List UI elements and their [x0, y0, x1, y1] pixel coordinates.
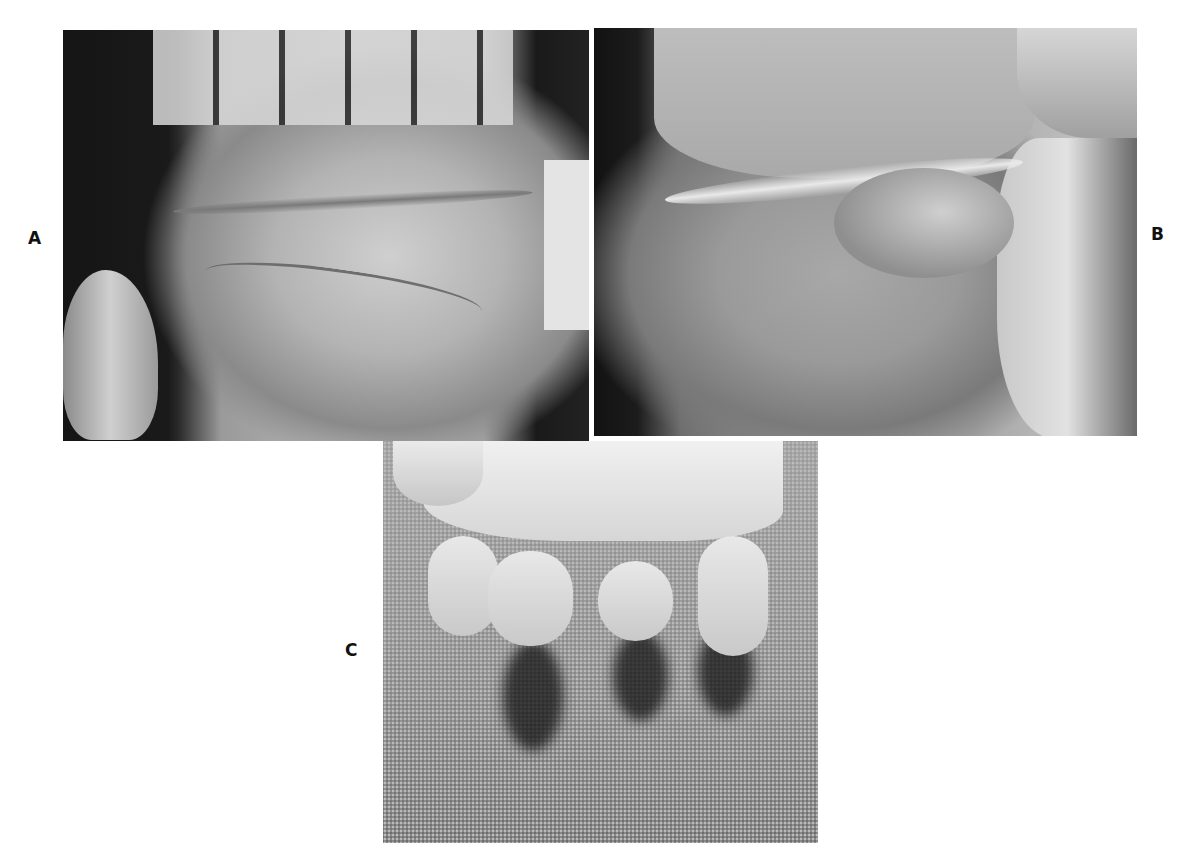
examiner-thumb-shape	[1017, 28, 1137, 138]
photo-panel-c	[383, 441, 818, 843]
fingers-shape	[153, 30, 513, 125]
panel-label-a: A	[28, 228, 41, 248]
finger-shadow	[613, 631, 668, 721]
palm-shape	[654, 28, 1034, 178]
finger-shape	[598, 561, 673, 641]
knuckle-shape	[393, 441, 483, 506]
photo-panel-b	[594, 28, 1137, 436]
finger-shadow	[503, 641, 563, 751]
palm-crease	[173, 186, 533, 219]
panel-label-c: C	[345, 640, 357, 660]
background-light	[544, 160, 589, 330]
panel-label-b: B	[1151, 224, 1164, 244]
finger-shape	[698, 536, 768, 656]
palm-crease	[201, 251, 484, 333]
finger-shape	[488, 551, 573, 646]
examiner-hand-shape	[997, 138, 1137, 436]
photo-panel-a	[63, 30, 589, 441]
thenar-pad-shape	[834, 168, 1014, 278]
thumb-shape	[63, 270, 158, 440]
